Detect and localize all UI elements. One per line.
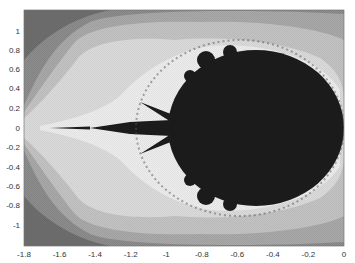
y-tick-label: 0.8 — [9, 46, 21, 55]
x-axis: -1.8 -1.6 -1.4 -1.2 -1 -0.8 -0.6 -0.4 -0… — [17, 250, 347, 259]
y-tick-label: 0.2 — [9, 104, 21, 113]
x-tick-label: -1.8 — [17, 250, 31, 259]
y-tick-label: -1 — [13, 221, 21, 230]
y-axis: 1 0.8 0.6 0.4 0.2 0 -0.2 -0.4 -0.6 -0.8 … — [6, 27, 20, 230]
x-tick-label: -0.2 — [302, 250, 316, 259]
y-tick-label: 0 — [16, 124, 21, 133]
x-tick-label: -1 — [163, 250, 171, 259]
x-tick-label: 0 — [342, 250, 347, 259]
y-tick-label: -0.8 — [6, 201, 20, 210]
x-tick-label: -1.4 — [88, 250, 102, 259]
y-tick-label: -0.2 — [6, 143, 20, 152]
y-tick-label: 0.6 — [9, 65, 21, 74]
contour-plot-figure: 1 0.8 0.6 0.4 0.2 0 -0.2 -0.4 -0.6 -0.8 … — [0, 0, 355, 263]
x-tick-label: -0.8 — [195, 250, 209, 259]
x-tick-label: -1.6 — [53, 250, 67, 259]
y-tick-label: -0.4 — [6, 163, 20, 172]
x-tick-label: -0.4 — [266, 250, 280, 259]
y-tick-label: -0.6 — [6, 182, 20, 191]
y-tick-label: 1 — [16, 27, 21, 36]
x-tick-label: -0.6 — [230, 250, 244, 259]
y-tick-label: 0.4 — [9, 84, 21, 93]
x-tick-label: -1.2 — [124, 250, 138, 259]
plot-area — [24, 10, 344, 246]
